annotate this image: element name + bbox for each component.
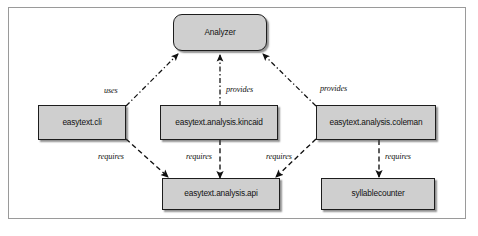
node-syllablecounter-label: syllablecounter [351,189,404,198]
node-easytext-analysis-coleman[interactable]: easytext.analysis.coleman [316,105,436,140]
edge-label-requires-kincaid: requires [186,152,212,161]
edge-label-uses: uses [104,86,118,95]
diagram-canvas: Analyzer easytext.cli easytext.analysis.… [0,0,478,236]
node-analyzer[interactable]: Analyzer [173,14,267,51]
node-easytext-analysis-api[interactable]: easytext.analysis.api [162,178,280,210]
node-syllablecounter[interactable]: syllablecounter [321,178,435,210]
node-easytext-cli[interactable]: easytext.cli [38,105,126,140]
edge-label-provides-kincaid: provides [226,85,253,94]
node-easytext-analysis-kincaid-label: easytext.analysis.kincaid [175,118,263,127]
edge-label-requires-coleman: requires [266,152,292,161]
edge-label-provides-coleman: provides [320,84,347,93]
node-analyzer-label: Analyzer [204,28,235,37]
node-easytext-analysis-coleman-label: easytext.analysis.coleman [329,118,422,127]
edge-label-requires-cli: requires [98,152,124,161]
node-easytext-analysis-kincaid[interactable]: easytext.analysis.kincaid [160,105,278,140]
edge-label-requires-syllablecounter: requires [385,152,411,161]
node-easytext-analysis-api-label: easytext.analysis.api [184,189,257,198]
node-easytext-cli-label: easytext.cli [62,118,101,127]
